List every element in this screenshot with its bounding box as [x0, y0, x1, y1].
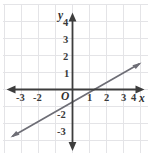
y-tick-label-neg3: -3	[57, 127, 66, 138]
y-tick-label-4: 4	[63, 18, 68, 29]
y-tick-label-neg2: -2	[57, 110, 66, 121]
x-tick-label-1: 1	[87, 93, 92, 104]
x-axis-label: x	[139, 93, 145, 105]
grid-lines	[3, 4, 148, 153]
x-tick-label-4: 4	[131, 93, 136, 104]
y-tick-label-2: 2	[63, 52, 68, 63]
graph-canvas	[0, 0, 151, 157]
y-tick-label-1: 1	[64, 69, 69, 80]
x-tick-label-2: 2	[104, 93, 109, 104]
y-tick-label-3: 3	[63, 35, 68, 46]
x-tick-label-neg3: -3	[16, 93, 25, 104]
origin-label: O	[61, 91, 69, 103]
x-tick-label-3: 3	[121, 93, 126, 104]
coordinate-plane-figure: y x O 4 3 2 1 -2 -3 -3 -2 1 2 3 4	[0, 0, 151, 157]
x-tick-label-neg2: -2	[33, 93, 42, 104]
